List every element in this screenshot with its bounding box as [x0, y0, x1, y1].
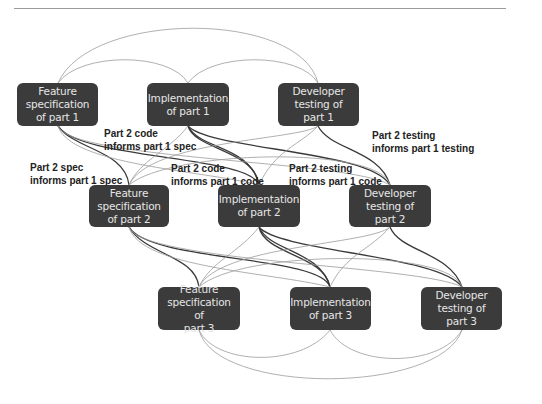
- node-developer-testing-part-2: Developertesting of part 2: [349, 185, 431, 227]
- node-implementation-part-2: Implementationof part 2: [218, 185, 300, 227]
- node-text: of part 3: [290, 309, 371, 322]
- label-line: Part 2 testing: [372, 130, 474, 143]
- edge-label-part2-testing-informs-part1-testing: Part 2 testing informs part 1 testing: [372, 130, 474, 155]
- node-text: of part 2: [219, 206, 300, 219]
- node-text: Implementation: [219, 193, 300, 206]
- node-text: testing of part 3: [427, 302, 496, 328]
- node-implementation-part-3: Implementationof part 3: [290, 287, 371, 330]
- label-line: Part 2 code: [104, 128, 196, 141]
- node-text: part 3: [164, 322, 234, 335]
- row3-to-row2-light: [129, 227, 462, 287]
- node-text: of part 2: [97, 213, 161, 226]
- node-feature-spec-part-1: Featurespecificationof part 1: [17, 83, 98, 126]
- node-text: specification: [97, 200, 161, 213]
- node-text: Developer: [427, 289, 496, 302]
- edge-label-part2-spec-informs-part1-spec: Part 2 spec informs part 1 spec: [30, 162, 122, 187]
- node-text: Developer: [355, 187, 425, 200]
- node-developer-testing-part-3: Developertesting of part 3: [421, 287, 502, 330]
- node-text: Implementation: [290, 296, 371, 309]
- label-line: informs part 1 spec: [30, 175, 122, 188]
- label-line: Part 2 spec: [30, 162, 122, 175]
- node-developer-testing-part-1: Developertesting of part 1: [278, 83, 359, 126]
- node-feature-spec-part-3: Featurespecification ofpart 3: [158, 287, 240, 330]
- node-text: Feature: [26, 85, 90, 98]
- edge-label-part2-code-informs-part1-spec: Part 2 code informs part 1 spec: [104, 128, 196, 153]
- label-line: informs part 1 code: [289, 176, 382, 189]
- label-line: informs part 1 code: [171, 176, 264, 189]
- node-text: of part 1: [26, 111, 90, 124]
- node-implementation-part-1: Implementationof part 1: [147, 83, 229, 126]
- node-text: of part 1: [148, 105, 229, 118]
- node-feature-spec-part-2: Featurespecificationof part 2: [89, 185, 169, 227]
- node-text: testing of part 1: [284, 98, 353, 124]
- node-text: Feature: [97, 187, 161, 200]
- row3-arcs: [199, 330, 462, 379]
- edge-label-part2-testing-informs-part1-code: Part 2 testing informs part 1 code: [289, 163, 382, 188]
- node-text: Feature: [164, 283, 234, 296]
- node-text: specification of: [164, 296, 234, 322]
- node-text: testing of part 2: [355, 200, 425, 226]
- row3-to-row2-dark: [129, 227, 462, 287]
- edge-label-part2-code-informs-part1-code: Part 2 code informs part 1 code: [171, 163, 264, 188]
- node-text: Implementation: [148, 92, 229, 105]
- node-text: Developer: [284, 85, 353, 98]
- label-line: Part 2 testing: [289, 163, 382, 176]
- label-line: informs part 1 testing: [372, 143, 474, 156]
- row1-arcs: [58, 28, 318, 83]
- node-text: specification: [26, 98, 90, 111]
- label-line: Part 2 code: [171, 163, 264, 176]
- label-line: informs part 1 spec: [104, 141, 196, 154]
